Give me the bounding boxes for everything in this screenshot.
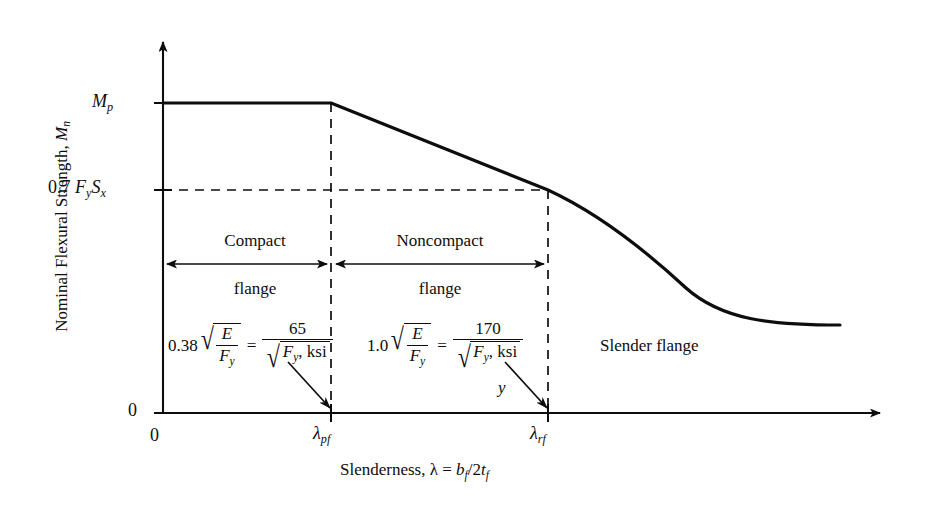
radical-sign-icon: √: [267, 342, 280, 372]
fysx-f-symbol: F: [75, 177, 86, 197]
x-axis-equals: =: [438, 460, 456, 479]
stray-annotation-letter: y: [498, 379, 506, 397]
formula-pf-rhs: 65 √ Fy, ksi: [262, 320, 332, 371]
formula-rf-equals: =: [437, 337, 447, 355]
fysx-coefficient: 0.7: [48, 177, 75, 197]
formula-rf-numerator: 170: [472, 320, 504, 338]
formula-pf-E: E: [219, 325, 235, 343]
x-tick-label-lambda-rf: λrf: [530, 424, 546, 446]
y-tick-label-fysx: 0.7 FySx: [48, 178, 106, 200]
formula-pf-equals: =: [247, 337, 257, 355]
y-tick-label-zero: 0: [128, 401, 137, 420]
region-label-slender: Slender flange: [600, 337, 699, 355]
formula-rf-radical: √ E Fy: [389, 323, 431, 368]
radical-sign-icon: √: [391, 324, 404, 369]
formula-lambda-pf: 0.38 √ E Fy = 65 √ Fy, ksi: [168, 320, 333, 371]
formula-rf-den-unit: , ksi: [489, 342, 517, 361]
formula-pf-coefficient: 0.38: [168, 337, 198, 355]
formula-rf-denominator: √ Fy, ksi: [453, 341, 523, 371]
lambda-pf-symbol: λ: [313, 423, 321, 443]
x-axis-b-symbol: b: [456, 460, 465, 479]
formula-rf-F-subscript: y: [420, 354, 425, 367]
figure-canvas: Nominal Flexural Strength, Mn Mp 0.7 FyS…: [0, 0, 937, 506]
formula-rf-coefficient: 1.0: [367, 337, 388, 355]
y-axis-title-subscript: n: [60, 121, 73, 127]
radical-sign-icon: √: [200, 324, 213, 369]
formula-pf-den-F: F: [283, 342, 293, 361]
formula-pf-den-unit: , ksi: [298, 342, 326, 361]
x-tick-label-zero: 0: [150, 426, 159, 445]
lambda-rf-symbol: λ: [530, 423, 538, 443]
y-axis-title: Nominal Flexural Strength, Mn: [53, 61, 74, 391]
formula-rf-E: E: [409, 325, 425, 343]
formula-pf-denominator: √ Fy, ksi: [262, 341, 332, 371]
formula-pf-F-subscript: y: [230, 354, 235, 367]
y-tick-label-mp: Mp: [92, 92, 113, 114]
formula-lambda-rf: 1.0 √ E Fy = 170 √ Fy, ksi: [367, 320, 523, 371]
x-axis-slash: /2: [468, 460, 481, 479]
region-noncompact-line1: Noncompact: [360, 232, 520, 250]
region-label-noncompact: Noncompact flange: [360, 232, 520, 298]
formula-rf-F: F: [410, 346, 420, 365]
mp-subscript: p: [107, 100, 113, 114]
region-compact-line1: Compact: [190, 232, 320, 250]
y-axis-title-symbol: M: [52, 127, 71, 141]
formula-rf-ratio: E Fy: [407, 325, 429, 368]
fysx-s-subscript: x: [100, 186, 105, 200]
formula-pf-ratio: E Fy: [216, 325, 238, 368]
lambda-rf-subscript: rf: [538, 432, 546, 446]
formula-pf-numerator: 65: [286, 320, 309, 338]
radical-sign-icon: √: [457, 342, 470, 372]
x-axis-title: Slenderness, λ = bf/2tf: [340, 461, 489, 482]
region-label-compact: Compact flange: [190, 232, 320, 298]
y-axis-title-text: Nominal Flexural Strength,: [52, 141, 71, 332]
x-axis-title-text: Slenderness,: [340, 460, 430, 479]
region-noncompact-line2: flange: [360, 280, 520, 298]
formula-rf-den-F: F: [473, 342, 483, 361]
region-compact-line2: flange: [190, 280, 320, 298]
x-tick-label-lambda-pf: λpf: [313, 424, 330, 446]
x-axis-t-subscript: f: [486, 469, 489, 482]
formula-pf-radical: √ E Fy: [199, 323, 241, 368]
mp-symbol: M: [92, 91, 107, 111]
x-axis-lambda: λ: [430, 460, 438, 479]
formula-rf-rhs: 170 √ Fy, ksi: [453, 320, 523, 371]
formula-pf-F: F: [219, 346, 229, 365]
lambda-pf-subscript: pf: [321, 432, 331, 446]
